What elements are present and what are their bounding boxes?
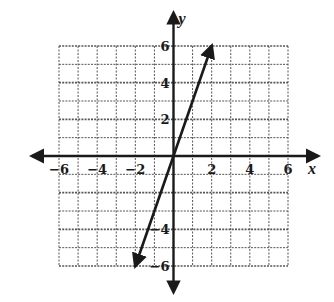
x-tick-label: 4 <box>245 162 254 177</box>
y-tick-label: 4 <box>160 76 169 91</box>
x-tick-label: 6 <box>283 162 292 177</box>
y-tick-label: 6 <box>160 39 169 54</box>
x-tick-label: −2 <box>125 162 145 177</box>
y-tick-label: −6 <box>150 259 170 274</box>
coordinate-plane: −6−4−2246642−4−6 x y <box>0 0 334 302</box>
x-axis-label: x <box>307 160 316 177</box>
x-tick-label: −6 <box>49 162 69 177</box>
x-tick-label: −4 <box>87 162 107 177</box>
y-axis-label: y <box>177 10 187 28</box>
y-tick-label: 2 <box>160 112 169 127</box>
y-tick-label: −4 <box>150 222 170 237</box>
x-tick-label: 2 <box>207 162 216 177</box>
